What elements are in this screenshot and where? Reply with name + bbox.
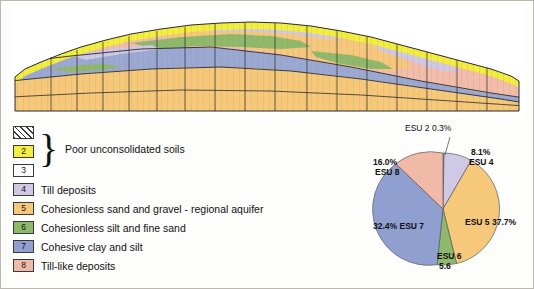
legend-label-esu5: Cohesionless sand and gravel - regional … [41, 203, 263, 215]
legend-swatch-esu7: 7 [13, 240, 34, 253]
legend-swatch-esu2: 2 [13, 145, 34, 158]
pie-label-esu6-pct: 5.6 [439, 261, 451, 271]
pie-label-esu4-name: ESU 4 [469, 157, 494, 167]
pie-label-esu8-name: ESU 8 [375, 167, 400, 177]
legend-row-hatch [13, 123, 353, 142]
legend-label-esu6: Cohesionless silt and fine sand [41, 222, 186, 234]
legend-row-esu3: 3 [13, 161, 353, 180]
cross-section-svg [11, 7, 525, 119]
pie-label-esu5: ESU 5 37.7% [465, 217, 516, 227]
legend-swatch-hatch [13, 126, 34, 139]
geologic-cross-section [11, 7, 525, 119]
poor-soils-note: Poor unconsolidated soils [65, 143, 185, 155]
legend-row-esu7: 7 Cohesive clay and silt [13, 237, 353, 256]
legend-swatch-esu4: 4 [13, 183, 34, 196]
legend-row-esu8: 8 Till-like deposits [13, 256, 353, 275]
legend: 2 3 4 Till deposits 5 Cohesionless sand … [13, 123, 353, 275]
legend-label-esu4: Till deposits [41, 184, 96, 196]
pie-label-esu8-pct: 16.0% [373, 157, 397, 167]
legend-label-esu7: Cohesive clay and silt [41, 241, 143, 253]
legend-label-esu8: Till-like deposits [41, 260, 115, 272]
esu-proportion-pie-chart: ESU 2 0.3% 8.1% ESU 4 ESU 5 37.7% ESU 6 … [357, 125, 529, 283]
brace-icon: } [39, 123, 57, 180]
legend-row-esu4: 4 Till deposits [13, 180, 353, 199]
pie-label-esu2: ESU 2 0.3% [405, 123, 451, 133]
legend-row-esu6: 6 Cohesionless silt and fine sand [13, 218, 353, 237]
legend-swatch-esu8: 8 [13, 259, 34, 272]
pie-label-esu7: 32.4% ESU 7 [373, 221, 424, 231]
legend-swatch-esu5: 5 [13, 202, 34, 215]
legend-row-esu5: 5 Cohesionless sand and gravel - regiona… [13, 199, 353, 218]
legend-swatch-esu6: 6 [13, 221, 34, 234]
pie-label-esu6-name: ESU 6 [437, 251, 462, 261]
pie-label-esu4-pct: 8.1% [471, 147, 490, 157]
pie-leader-esu2 [445, 137, 450, 155]
figure-page: 2 3 4 Till deposits 5 Cohesionless sand … [0, 0, 534, 289]
legend-swatch-esu3: 3 [13, 164, 34, 177]
